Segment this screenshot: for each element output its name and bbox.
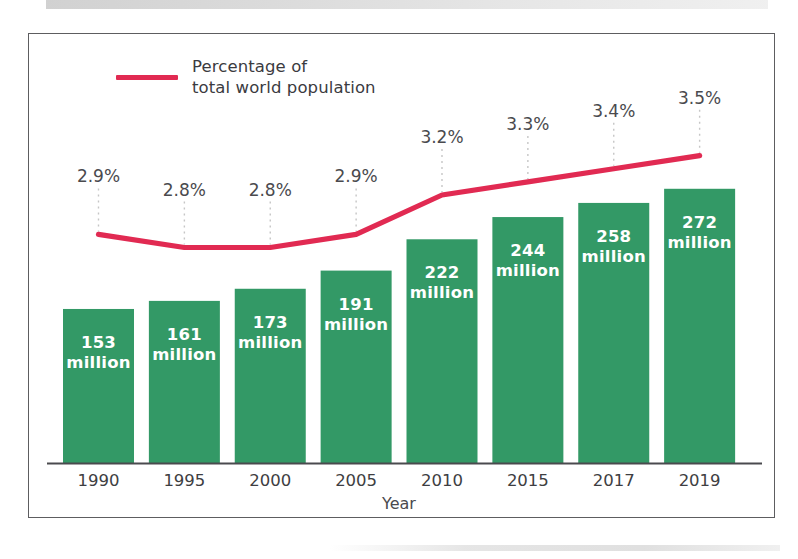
percentage-value-label: 3.4% xyxy=(574,101,654,121)
x-tick-label-2019: 2019 xyxy=(660,471,740,491)
percentage-value-label: 2.8% xyxy=(144,180,224,200)
legend-line-swatch-icon xyxy=(116,75,178,80)
x-tick-label-2000: 2000 xyxy=(230,471,310,491)
percentage-value-label: 3.2% xyxy=(402,127,482,147)
x-tick-label-2017: 2017 xyxy=(574,471,654,491)
bar-value-label: 222 million xyxy=(407,263,478,303)
percentage-value-label: 2.9% xyxy=(59,166,139,186)
bar-value-label: 173 million xyxy=(235,313,306,353)
x-tick-label-1990: 1990 xyxy=(59,471,139,491)
percentage-value-label: 3.5% xyxy=(660,88,740,108)
percentage-value-label: 2.8% xyxy=(230,180,310,200)
legend-line-label: Percentage of total world population xyxy=(192,56,376,98)
bar-value-label: 153 million xyxy=(63,333,134,373)
x-tick-label-1995: 1995 xyxy=(144,471,224,491)
bar-value-label: 258 million xyxy=(578,227,649,267)
bar-value-label: 191 million xyxy=(321,295,392,335)
x-tick-label-2005: 2005 xyxy=(316,471,396,491)
bar-value-label: 244 million xyxy=(492,241,563,281)
bar-value-label: 272 million xyxy=(664,213,735,253)
legend: Percentage of total world population xyxy=(116,56,376,98)
bar-value-label: 161 million xyxy=(149,325,220,365)
x-tick-label-2015: 2015 xyxy=(488,471,568,491)
percentage-value-label: 2.9% xyxy=(316,166,396,186)
percentage-value-label: 3.3% xyxy=(488,114,568,134)
x-tick-label-2010: 2010 xyxy=(402,471,482,491)
x-axis-title: Year xyxy=(0,494,798,513)
